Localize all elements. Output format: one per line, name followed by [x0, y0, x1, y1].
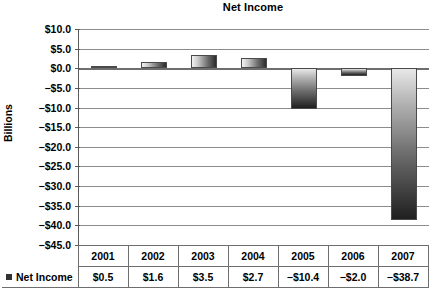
gridline--30 — [79, 186, 429, 187]
y-tick-label: $0.0 — [1, 63, 71, 73]
gridline--20 — [79, 147, 429, 148]
y-tick-mark — [75, 186, 80, 187]
y-tick-label: −$40.0 — [1, 220, 71, 230]
table-header-2001: 2001 — [78, 246, 128, 267]
gridline-5 — [79, 49, 429, 50]
y-tick-mark — [75, 68, 80, 69]
gridline--15 — [79, 127, 429, 128]
net-income-chart: Net Income Billions $10.0$5.0$0.0−$5.0−$… — [0, 0, 432, 291]
y-tick-mark — [75, 225, 80, 226]
table-cell-2007: −$38.7 — [378, 267, 428, 288]
gridline--40 — [79, 225, 429, 226]
y-tick-mark — [75, 88, 80, 89]
y-tick-mark — [75, 108, 80, 109]
y-tick-mark — [75, 206, 80, 207]
table-cell-2003: $3.5 — [178, 267, 228, 288]
legend-entry-net-income: Net Income — [2, 267, 78, 288]
table-header-2003: 2003 — [178, 246, 228, 267]
legend-label: Net Income — [16, 271, 73, 283]
bar-2003 — [191, 55, 217, 69]
table-cell-2006: −$2.0 — [328, 267, 378, 288]
table-cell-2002: $1.6 — [128, 267, 178, 288]
y-tick-label: −$20.0 — [1, 142, 71, 152]
table-header-row: 2001 2002 2003 2004 2005 2006 2007 — [2, 246, 428, 267]
bar-2004 — [241, 58, 267, 69]
gridline-10 — [79, 29, 429, 30]
gridline--10 — [79, 108, 429, 109]
table-header-2005: 2005 — [278, 246, 328, 267]
y-tick-mark — [75, 29, 80, 30]
y-tick-label: −$5.0 — [1, 83, 71, 93]
y-tick-mark — [75, 49, 80, 50]
y-tick-mark — [75, 127, 80, 128]
table-cell-2001: $0.5 — [78, 267, 128, 288]
y-tick-mark — [75, 166, 80, 167]
bar-2001 — [91, 66, 117, 68]
bar-2006 — [341, 68, 367, 76]
table-header-2006: 2006 — [328, 246, 378, 267]
gridline-0 — [79, 68, 429, 70]
y-tick-label: −$10.0 — [1, 103, 71, 113]
bar-2005 — [291, 68, 317, 109]
y-tick-label: −$25.0 — [1, 161, 71, 171]
chart-title: Net Income — [78, 1, 428, 14]
y-tick-label: −$35.0 — [1, 201, 71, 211]
y-tick-label: −$30.0 — [1, 181, 71, 191]
plot-area — [78, 29, 428, 245]
table-header-2004: 2004 — [228, 246, 278, 267]
gridline--25 — [79, 166, 429, 167]
y-tick-label: −$15.0 — [1, 122, 71, 132]
legend-swatch-icon — [6, 274, 12, 280]
table-corner-cell — [2, 246, 78, 267]
bar-2002 — [141, 62, 167, 68]
table-header-2002: 2002 — [128, 246, 178, 267]
table-cell-2005: −$10.4 — [278, 267, 328, 288]
y-tick-label: $10.0 — [1, 24, 71, 34]
table-cell-2004: $2.7 — [228, 267, 278, 288]
y-tick-label: $5.0 — [1, 44, 71, 54]
bar-2007 — [391, 68, 417, 220]
table-header-2007: 2007 — [378, 246, 428, 267]
gridline--5 — [79, 88, 429, 89]
data-table: 2001 2002 2003 2004 2005 2006 2007 Net I… — [2, 245, 429, 288]
gridline--35 — [79, 206, 429, 207]
table-row: Net Income $0.5 $1.6 $3.5 $2.7 −$10.4 −$… — [2, 267, 428, 288]
y-tick-mark — [75, 147, 80, 148]
